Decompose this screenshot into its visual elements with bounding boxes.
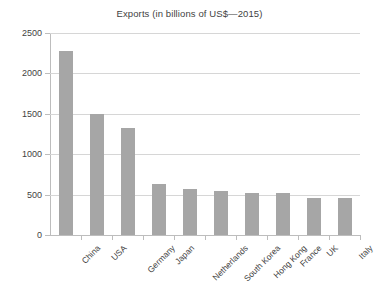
y-axis-label: 2500 bbox=[4, 28, 42, 38]
y-tick-1500 bbox=[45, 114, 50, 115]
y-axis-label: 2000 bbox=[4, 68, 42, 78]
x-tick bbox=[298, 236, 299, 240]
y-tick-0 bbox=[45, 235, 50, 236]
x-tick bbox=[205, 236, 206, 240]
bar bbox=[245, 193, 259, 235]
chart-title: Exports (in billions of US$—2015) bbox=[0, 8, 379, 19]
gridline-2000 bbox=[50, 73, 360, 74]
y-tick-500 bbox=[45, 195, 50, 196]
x-tick bbox=[236, 236, 237, 240]
x-axis-label-wrap: UK bbox=[324, 243, 339, 258]
x-axis-label: USA bbox=[109, 243, 128, 262]
x-tick bbox=[174, 236, 175, 240]
bar bbox=[152, 184, 166, 235]
y-tick-2000 bbox=[45, 73, 50, 74]
y-axis-label: 1000 bbox=[4, 149, 42, 159]
bar bbox=[183, 189, 197, 235]
x-axis-label-wrap: Italy bbox=[356, 243, 374, 261]
x-tick bbox=[112, 236, 113, 240]
x-tick bbox=[329, 236, 330, 240]
x-tick bbox=[267, 236, 268, 240]
x-axis-label: China bbox=[79, 243, 102, 266]
x-tick bbox=[81, 236, 82, 240]
gridline-2500 bbox=[50, 33, 360, 34]
bar bbox=[90, 114, 104, 235]
y-axis-label: 1500 bbox=[4, 109, 42, 119]
x-tick bbox=[360, 236, 361, 240]
x-axis-label-wrap: China bbox=[79, 243, 102, 266]
plot-area bbox=[50, 33, 360, 235]
x-tick bbox=[143, 236, 144, 240]
bar bbox=[214, 191, 228, 235]
bar bbox=[276, 193, 290, 235]
y-axis-label: 0 bbox=[4, 230, 42, 240]
bar bbox=[121, 128, 135, 235]
y-axis-tick-labels: 05001000150020002500 bbox=[0, 33, 42, 235]
y-tick-1000 bbox=[45, 154, 50, 155]
x-axis-label: Italy bbox=[356, 243, 374, 261]
x-axis-label: UK bbox=[324, 243, 339, 258]
bar-chart: Exports (in billions of US$—2015) 050010… bbox=[0, 0, 379, 305]
bar bbox=[307, 198, 321, 235]
y-tick-2500 bbox=[45, 33, 50, 34]
bar bbox=[338, 198, 352, 235]
bar bbox=[59, 51, 73, 235]
y-axis-label: 500 bbox=[4, 190, 42, 200]
x-axis-label-wrap: Japan bbox=[172, 243, 195, 266]
x-axis-label: Japan bbox=[172, 243, 195, 266]
x-axis-label-wrap: USA bbox=[109, 243, 128, 262]
